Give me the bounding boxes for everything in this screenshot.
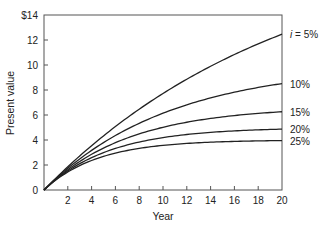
series-line	[44, 112, 282, 190]
x-tick-label: 16	[229, 195, 241, 206]
y-tick-label: 0	[32, 185, 38, 196]
y-tick-label: 8	[32, 85, 38, 96]
series-labels: i = 5%10%15%20%25%	[290, 29, 318, 146]
x-tick-label: 12	[181, 195, 193, 206]
series-label: 15%	[290, 107, 310, 118]
series-label: 10%	[290, 79, 310, 90]
series-line	[44, 34, 282, 190]
series-line	[44, 141, 282, 190]
x-tick-label: 20	[276, 195, 288, 206]
y-tick-label: 10	[27, 60, 39, 71]
x-axis: 2468101214161820	[65, 186, 288, 206]
y-tick-label: 4	[32, 135, 38, 146]
series-label: 20%	[290, 124, 310, 135]
y-tick-label: $14	[21, 10, 38, 21]
y-tick-label: 2	[32, 160, 38, 171]
series-lines	[44, 34, 282, 190]
series-line	[44, 84, 282, 190]
x-axis-title: Year	[152, 210, 174, 222]
present-value-chart: 024681012$14 2468101214161820 i = 5%10%1…	[0, 0, 327, 233]
series-label: 25%	[290, 136, 310, 147]
x-tick-label: 4	[89, 195, 95, 206]
x-tick-label: 18	[253, 195, 265, 206]
x-tick-label: 6	[113, 195, 119, 206]
x-tick-label: 10	[157, 195, 169, 206]
y-tick-label: 12	[27, 35, 39, 46]
x-tick-label: 8	[136, 195, 142, 206]
series-label: i = 5%	[290, 29, 318, 40]
x-tick-label: 2	[65, 195, 71, 206]
y-axis-title: Present value	[4, 71, 16, 135]
y-tick-label: 6	[32, 110, 38, 121]
x-tick-label: 14	[205, 195, 217, 206]
